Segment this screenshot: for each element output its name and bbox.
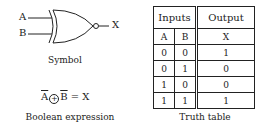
cell-a: 0 [154, 45, 175, 61]
cell-x: 1 [197, 93, 255, 109]
expr-equals: = X [71, 91, 90, 102]
expression-caption: Boolean expression [15, 112, 125, 122]
cell-b: 0 [175, 77, 197, 93]
input-a-label: A [19, 11, 26, 22]
header-output: Output [197, 7, 255, 29]
input-b-label: B [19, 27, 26, 38]
truth-table: Inputs Output A B X 0 0 1 0 1 0 1 0 0 1 … [153, 6, 255, 109]
truth-table-caption: Truth table [165, 112, 245, 122]
symbol-caption: Symbol [40, 55, 90, 65]
table-column-header-row: A B X [154, 29, 255, 45]
col-header-a: A [154, 29, 175, 45]
output-x-label: X [112, 19, 119, 30]
expression-negated-part: A+B [41, 91, 68, 102]
cell-x: 1 [197, 45, 255, 61]
cell-x: 0 [197, 77, 255, 93]
table-row: 0 1 0 [154, 61, 255, 77]
col-header-b: B [175, 29, 197, 45]
cell-b: 1 [175, 93, 197, 109]
expr-b: B [60, 91, 67, 102]
header-inputs: Inputs [154, 7, 197, 29]
table-row: 1 1 1 [154, 93, 255, 109]
table-group-header-row: Inputs Output [154, 7, 255, 29]
boolean-expression: A+B = X [41, 91, 89, 104]
cell-b: 0 [175, 45, 197, 61]
expr-a: A [41, 91, 48, 102]
cell-x: 0 [197, 61, 255, 77]
table-row: 1 0 0 [154, 77, 255, 93]
cell-a: 0 [154, 61, 175, 77]
col-header-x: X [197, 29, 255, 45]
cell-a: 1 [154, 93, 175, 109]
table-row: 0 0 1 [154, 45, 255, 61]
cell-a: 1 [154, 77, 175, 93]
cell-b: 1 [175, 61, 197, 77]
xor-operator-icon: + [49, 94, 59, 104]
